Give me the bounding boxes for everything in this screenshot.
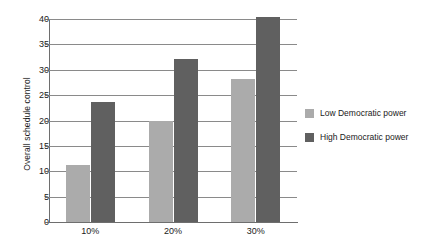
- x-tick-label: 30%: [247, 226, 265, 236]
- x-tick-label: 20%: [164, 226, 182, 236]
- legend-swatch-icon: [305, 133, 314, 142]
- bar-group: [49, 19, 297, 222]
- legend-label: High Democratic power: [320, 132, 408, 142]
- legend-item: Low Democratic power: [305, 108, 425, 118]
- bars-layer: [49, 19, 297, 222]
- y-tick-label: 30: [7, 65, 49, 75]
- legend-item: High Democratic power: [305, 132, 425, 142]
- y-tick-label: 0: [7, 217, 49, 227]
- y-tick-label: 25: [7, 90, 49, 100]
- bar-chart: Overall schedule control 051015202530354…: [0, 0, 428, 248]
- y-tick-label: 15: [7, 141, 49, 151]
- legend: Low Democratic powerHigh Democratic powe…: [305, 108, 425, 156]
- x-axis-labels: 10%20%30%: [49, 226, 297, 242]
- legend-label: Low Democratic power: [320, 108, 406, 118]
- y-axis-ticks: 0510152025303540: [0, 19, 49, 223]
- x-tick-label: 10%: [81, 226, 99, 236]
- y-tick-label: 5: [7, 192, 49, 202]
- bar-low-democratic-power-30pct: [231, 79, 255, 222]
- y-tick-label: 10: [7, 166, 49, 176]
- legend-swatch-icon: [305, 109, 314, 118]
- bar-high-democratic-power-30pct: [256, 17, 280, 222]
- x-axis-line: [49, 222, 298, 223]
- y-tick-label: 20: [7, 116, 49, 126]
- y-tick-label: 35: [7, 39, 49, 49]
- y-tick-label: 40: [7, 14, 49, 24]
